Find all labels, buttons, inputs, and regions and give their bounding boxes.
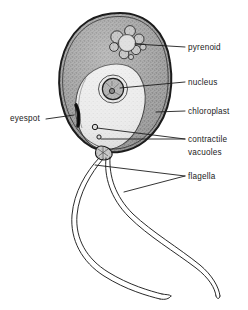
label-chloroplast: chloroplast xyxy=(188,107,230,116)
leader-flagellum-1 xyxy=(95,165,185,176)
contractile-vacuole-2 xyxy=(97,135,101,139)
label-nucleus: nucleus xyxy=(188,78,217,87)
label-contractile: contractile xyxy=(188,135,228,144)
leader-flagellum-2 xyxy=(124,176,185,192)
contractile-vacuole-1 xyxy=(92,124,97,129)
label-flagella: flagella xyxy=(188,172,216,181)
nucleus-body xyxy=(99,75,128,103)
label-vacuoles: vacuoles xyxy=(188,148,222,157)
flagellum-1 xyxy=(72,158,171,299)
chlamydomonas-diagram: pyrenoid nucleus chloroplast contractile… xyxy=(0,0,248,310)
label-pyrenoid: pyrenoid xyxy=(188,43,221,52)
label-eyespot: eyespot xyxy=(10,114,40,123)
nucleolus xyxy=(109,88,114,93)
